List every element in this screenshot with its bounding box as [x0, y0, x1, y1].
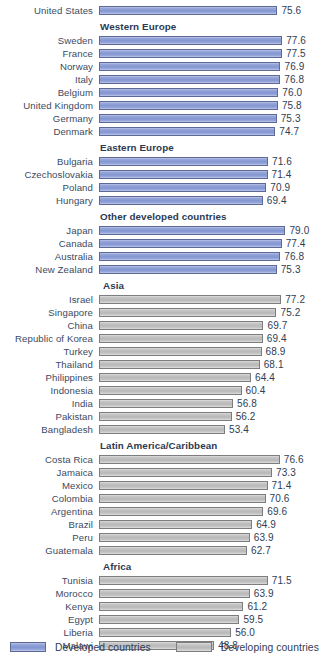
category-label: Czechoslovakia	[0, 169, 96, 180]
legend-item-developed[interactable]: Developed countries	[10, 642, 151, 653]
bar-value-label: 56.2	[236, 410, 256, 423]
section-header: Other developed countries	[0, 210, 330, 224]
category-label: Kenya	[0, 601, 96, 612]
chart-row: United Kingdom75.8	[0, 99, 330, 112]
bar-value-label: 69.4	[267, 332, 287, 345]
bar-track: 76.6	[96, 453, 330, 466]
chart-row: Argentina69.6	[0, 505, 330, 518]
chart-row: Mexico71.4	[0, 479, 330, 492]
category-label: Tunisia	[0, 575, 96, 586]
bar-developing	[99, 295, 281, 304]
bar-developing	[99, 546, 247, 555]
category-label: China	[0, 320, 96, 331]
category-label: Morocco	[0, 588, 96, 599]
chart-row: Hungary69.4	[0, 194, 330, 207]
bar-developed	[99, 127, 275, 136]
bar-developing	[99, 533, 250, 542]
bar-developing	[99, 507, 263, 516]
category-label: Pakistan	[0, 411, 96, 422]
bar-value-label: 79.0	[289, 224, 309, 237]
bar-value-label: 77.2	[285, 293, 305, 306]
bar-developed	[99, 114, 277, 123]
chart-row: Poland70.9	[0, 181, 330, 194]
bar-developed	[99, 36, 282, 45]
chart-row: New Zealand75.3	[0, 263, 330, 276]
chart-row: Norway76.9	[0, 60, 330, 73]
category-label: Germany	[0, 113, 96, 124]
bar-track: 70.9	[96, 181, 330, 194]
category-label: Brazil	[0, 519, 96, 530]
bar-value-label: 75.3	[281, 263, 301, 276]
category-label: Sweden	[0, 35, 96, 46]
bar-track: 77.4	[96, 237, 330, 250]
category-label: United Kingdom	[0, 100, 96, 111]
bar-value-label: 76.0	[282, 86, 302, 99]
section-header: Asia	[0, 279, 330, 293]
chart-row: India56.8	[0, 397, 330, 410]
chart-row: Philippines64.4	[0, 371, 330, 384]
category-label: France	[0, 48, 96, 59]
bar-value-label: 59.5	[243, 613, 263, 626]
category-label: Singapore	[0, 307, 96, 318]
section-header: Africa	[0, 560, 330, 574]
bar-track: 71.6	[96, 155, 330, 168]
bar-value-label: 68.9	[266, 345, 286, 358]
bar-track: 61.2	[96, 600, 330, 613]
bar-developed	[99, 49, 282, 58]
category-label: Japan	[0, 225, 96, 236]
bar-developed	[99, 157, 268, 166]
category-label: United States	[0, 5, 96, 16]
bar-track: 76.8	[96, 250, 330, 263]
category-label: Guatemala	[0, 545, 96, 556]
bar-value-label: 75.3	[281, 112, 301, 125]
bar-developing	[99, 468, 272, 477]
chart-row: Jamaica73.3	[0, 466, 330, 479]
bar-developing	[99, 425, 225, 434]
chart-row: China69.7	[0, 319, 330, 332]
category-label: Republic of Korea	[0, 333, 96, 344]
bar-chart: United States75.6Western EuropeSweden77.…	[0, 0, 330, 663]
bar-value-label: 75.6	[281, 4, 301, 17]
bar-value-label: 62.7	[251, 544, 271, 557]
bar-developing	[99, 494, 266, 503]
bar-value-label: 69.7	[267, 319, 287, 332]
bar-developed	[99, 239, 282, 248]
section-header-label: Other developed countries	[100, 211, 227, 223]
bar-developing	[99, 520, 252, 529]
bar-track: 75.6	[96, 4, 330, 17]
bar-track: 71.4	[96, 168, 330, 181]
bar-developed	[99, 252, 280, 261]
section-header-label: Western Europe	[100, 21, 176, 33]
bar-track: 71.5	[96, 574, 330, 587]
bar-developing	[99, 386, 242, 395]
category-label: Denmark	[0, 126, 96, 137]
bar-track: 71.4	[96, 479, 330, 492]
chart-row: Indonesia60.4	[0, 384, 330, 397]
bar-value-label: 61.2	[247, 600, 267, 613]
chart-row: Thailand68.1	[0, 358, 330, 371]
bar-developing	[99, 334, 263, 343]
chart-row: Pakistan56.2	[0, 410, 330, 423]
chart-row: Sweden77.6	[0, 34, 330, 47]
chart-row: France77.5	[0, 47, 330, 60]
legend-swatch-icon	[10, 642, 46, 652]
bar-track: 75.8	[96, 99, 330, 112]
chart-row: Singapore75.2	[0, 306, 330, 319]
legend-label: Developing countries	[221, 642, 319, 653]
chart-row: Germany75.3	[0, 112, 330, 125]
bar-value-label: 64.9	[256, 518, 276, 531]
bar-value-label: 71.4	[272, 479, 292, 492]
chart-row: Costa Rica76.6	[0, 453, 330, 466]
bar-value-label: 75.2	[280, 306, 300, 319]
bar-track: 60.4	[96, 384, 330, 397]
bar-track: 69.4	[96, 194, 330, 207]
legend-item-developing[interactable]: Developing countries	[176, 642, 319, 653]
bar-track: 69.7	[96, 319, 330, 332]
bar-track: 56.2	[96, 410, 330, 423]
bar-developed	[99, 62, 280, 71]
chart-row: Israel77.2	[0, 293, 330, 306]
bar-developing	[99, 373, 251, 382]
bar-value-label: 74.7	[279, 125, 299, 138]
category-label: Norway	[0, 61, 96, 72]
chart-row: Republic of Korea69.4	[0, 332, 330, 345]
